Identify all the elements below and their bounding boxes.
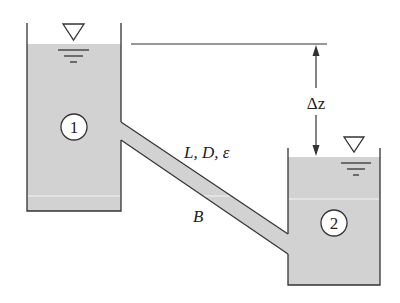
- dz-arrow-down-icon: [313, 145, 320, 156]
- pipe: [121, 122, 288, 254]
- dz-arrow-up-icon: [313, 45, 320, 56]
- reservoir-2-label: 2: [330, 214, 339, 233]
- reservoir-1-label: 1: [70, 118, 79, 137]
- two-reservoir-pipe-diagram: Δz 1 2 L, D, ε B: [0, 0, 400, 303]
- pipe-top-edge: [121, 122, 288, 234]
- reservoir-2-marker: 2: [321, 210, 347, 236]
- pipe-fill: [121, 122, 288, 254]
- pipe-point-b-label: B: [193, 207, 204, 226]
- pipe-properties-label: L, D, ε: [183, 143, 230, 162]
- dz-label: Δz: [307, 94, 326, 113]
- reservoir-1-marker: 1: [61, 114, 87, 140]
- elevation-dimension: Δz: [131, 44, 327, 156]
